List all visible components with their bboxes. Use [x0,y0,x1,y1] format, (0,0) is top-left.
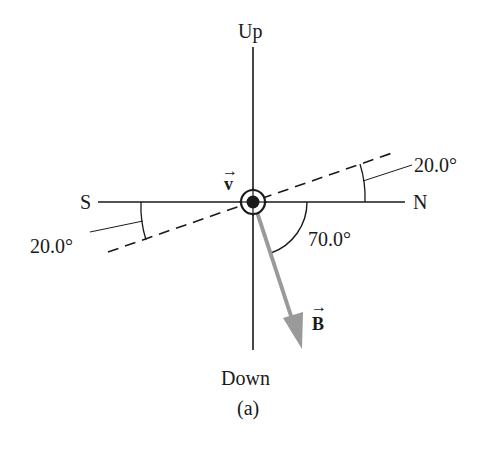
leader-line-right [363,165,412,181]
angle-arc-right [360,164,365,202]
label-up: Up [238,20,262,43]
field-vector-shaft [255,206,293,322]
label-north: N [413,191,427,213]
magnetic-field-diagram: Up Down N S (a) 20.0° 20.0° 70.0° → v → … [0,0,486,453]
label-field: B [312,314,324,334]
caption: (a) [237,397,259,420]
angle-arc-70 [271,202,307,253]
angle-label-right: 20.0° [414,154,457,176]
angle-label-left: 20.0° [30,235,73,257]
angle-label-70: 70.0° [308,228,351,250]
vector-arrow-icon-b: → [311,298,327,315]
field-vector-head [283,312,303,349]
label-velocity: v [224,174,233,194]
label-south: S [80,191,91,213]
leader-line-left [90,221,143,232]
label-down: Down [221,367,270,389]
